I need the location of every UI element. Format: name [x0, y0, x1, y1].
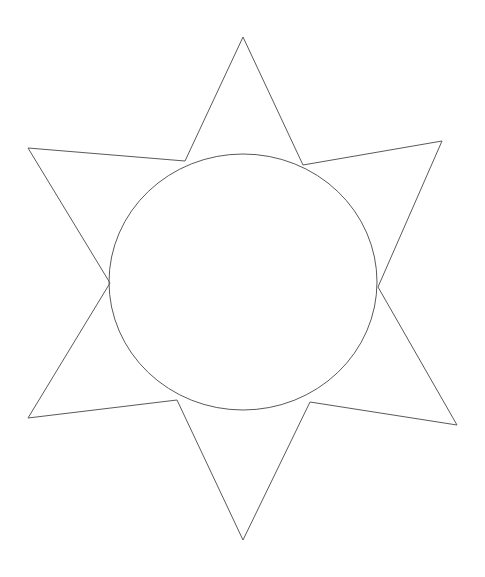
drawing-background	[0, 0, 485, 577]
line-drawing-canvas	[0, 0, 485, 577]
